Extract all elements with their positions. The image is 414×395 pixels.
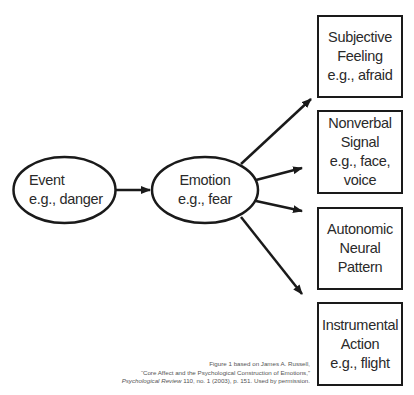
nonverbal-signal-line-4: voice (328, 171, 391, 190)
autonomic-neural-pattern-box: Autonomic Neural Pattern (317, 207, 403, 290)
nonverbal-signal-line-2: Signal (328, 133, 391, 152)
caption-citation-details: 110, no. 1 (2003), p. 151. Used by permi… (181, 377, 310, 384)
instrumental-action-box: Instrumental Action e.g., flight (317, 302, 403, 386)
autonomic-neural-pattern-line-2: Neural (327, 239, 393, 258)
nonverbal-signal-line-1: Nonverbal (328, 114, 391, 133)
instrumental-action-line-2: Action (322, 335, 398, 354)
instrumental-action-line-3: e.g., flight (322, 354, 398, 373)
subjective-feeling-box: Subjective Feeling e.g., afraid (317, 15, 403, 98)
nonverbal-signal-line-3: e.g., face, (328, 152, 391, 171)
subjective-feeling-line-2: Feeling (328, 47, 393, 66)
subjective-feeling-line-1: Subjective (328, 28, 393, 47)
caption-line-1: Figure 1 based on James A. Russell, (50, 360, 310, 369)
arrow-emotion-to-subjective-feeling (241, 99, 311, 164)
autonomic-neural-pattern-line-1: Autonomic (327, 220, 393, 239)
event-node: Event e.g., danger (29, 171, 119, 209)
caption-line-2: “Core Affect and the Psychological Const… (50, 369, 310, 378)
emotion-label: Emotion (160, 171, 250, 190)
caption-journal-title: Psychological Review (122, 377, 182, 384)
emotion-example: e.g., fear (160, 190, 250, 209)
arrow-emotion-to-instrumental-action (241, 217, 302, 294)
caption-line-3: Psychological Review 110, no. 1 (2003), … (50, 377, 310, 386)
subjective-feeling-line-3: e.g., afraid (328, 66, 393, 85)
autonomic-neural-pattern-line-3: Pattern (327, 258, 393, 277)
emotion-node: Emotion e.g., fear (160, 171, 250, 209)
nonverbal-signal-box: Nonverbal Signal e.g., face, voice (317, 110, 403, 194)
arrow-emotion-to-autonomic-neural-pattern (256, 201, 302, 211)
event-example: e.g., danger (29, 190, 119, 209)
event-label: Event (29, 171, 119, 190)
figure-caption: Figure 1 based on James A. Russell, “Cor… (50, 360, 310, 386)
arrow-emotion-to-nonverbal-signal (256, 168, 302, 180)
instrumental-action-line-1: Instrumental (322, 316, 398, 335)
